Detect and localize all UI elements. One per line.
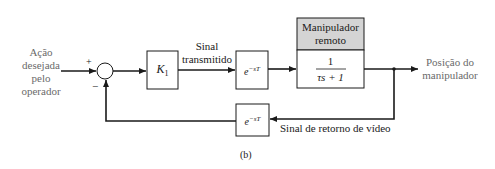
transmitted-signal-label: Sinal transmitido [181,40,233,66]
transmitted-label-line: transmitido [181,53,233,66]
input-label-line: pelo [14,72,68,85]
transfer-function-numerator: 1 [297,55,364,68]
plus-sign: + [86,55,92,68]
forward-delay-exponent: −sT [249,65,260,73]
gain-subscript: 1 [165,69,169,78]
figure-label: (b) [240,148,252,161]
manipulator-header-label: Manipulador remoto [297,21,364,47]
input-label-line: Ação [14,46,68,59]
transmitted-label-line: Sinal [181,40,233,53]
video-return-label: Sinal de retorno de vídeo [280,122,391,135]
feedback-delay-label: e−sT [236,113,269,128]
transfer-function-denominator: τs + 1 [297,71,364,84]
input-label-line: operador [14,85,68,98]
summing-junction [97,63,113,79]
gain-label: K1 [147,63,178,80]
feedback-delay-exponent: −sT [249,115,260,123]
manipulator-header-line: Manipulador [297,21,364,34]
manipulator-header-line: remoto [297,34,364,47]
minus-sign: − [92,80,98,93]
input-label: Ação desejada pelo operador [14,46,68,98]
input-label-line: desejada [14,59,68,72]
forward-delay-label: e−sT [236,63,268,78]
output-label-line: Posição do [420,56,480,69]
gain-symbol: K [156,62,164,76]
output-label: Posição do manipulador [420,56,480,82]
block-diagram-canvas [0,0,495,169]
output-label-line: manipulador [420,69,480,82]
